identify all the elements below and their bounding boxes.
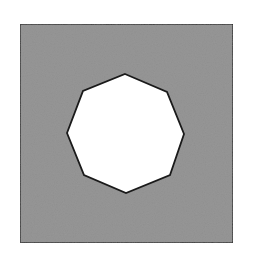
octagon-hole (67, 74, 184, 193)
diagram-canvas (0, 0, 255, 263)
